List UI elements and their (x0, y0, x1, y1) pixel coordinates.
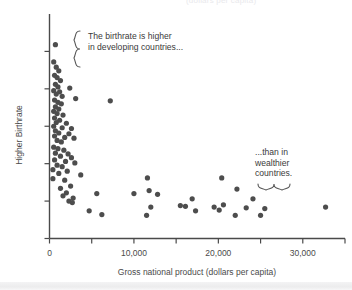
data-point (53, 42, 58, 47)
data-point (58, 186, 63, 191)
data-point (56, 106, 61, 111)
data-point (99, 212, 104, 217)
x-tick-label: 0 (47, 248, 52, 258)
data-point (68, 184, 73, 189)
x-tick-label: 20,000 (205, 248, 231, 258)
data-point (258, 213, 263, 218)
data-point (51, 124, 56, 129)
data-point (59, 139, 64, 144)
data-point (56, 68, 61, 73)
data-point (58, 78, 63, 83)
data-point (51, 59, 56, 64)
data-point (147, 188, 152, 193)
data-point (72, 160, 77, 165)
data-point (62, 178, 67, 183)
data-point (219, 175, 224, 180)
data-point (155, 192, 160, 197)
data-point (56, 130, 61, 135)
data-point (190, 196, 195, 201)
x-tick-label: 10,000 (121, 248, 147, 258)
data-point (234, 187, 239, 192)
data-point (73, 96, 78, 101)
data-point (183, 204, 188, 209)
data-point (66, 131, 71, 136)
data-point (50, 176, 55, 181)
y-axis-label: Higher Birthrate (14, 105, 24, 165)
data-point (217, 207, 222, 212)
data-point (233, 213, 238, 218)
data-point (221, 202, 226, 207)
left-curly-brace-icon (74, 31, 80, 67)
x-axis-ticks (50, 239, 346, 244)
data-point (70, 200, 75, 205)
annotation-wealthier-countries: ...than in wealthier countries. (255, 147, 292, 179)
data-point (55, 146, 60, 151)
x-tick-label: 30,000 (290, 248, 316, 258)
data-point (52, 115, 57, 120)
y-axis-ticks (45, 51, 50, 238)
data-point (178, 203, 183, 208)
data-point (250, 196, 255, 201)
data-point (60, 164, 65, 169)
data-point (148, 204, 153, 209)
data-point (56, 171, 61, 176)
data-points-group (50, 42, 328, 218)
data-point (94, 191, 99, 196)
data-point (262, 206, 267, 211)
data-point (144, 213, 149, 218)
data-point (59, 101, 64, 106)
data-point (55, 84, 60, 89)
data-point (63, 159, 68, 164)
x-axis-label: Gross national product (dollars per capi… (118, 267, 276, 277)
bottom-page-band (0, 282, 352, 290)
data-point (193, 208, 198, 213)
data-point (108, 98, 113, 103)
data-point (323, 204, 328, 209)
data-point (71, 136, 76, 141)
data-point (64, 121, 69, 126)
scatter-chart-figure: (dollars per capita) 010,00020,00030,000… (0, 0, 352, 290)
annotation-developing-countries: The birthrate is higher in developing co… (88, 31, 183, 52)
data-point (52, 157, 57, 162)
data-point (55, 111, 60, 116)
data-point (62, 135, 67, 140)
data-point (145, 175, 150, 180)
data-point (55, 163, 60, 168)
data-point (87, 208, 92, 213)
data-point (60, 94, 65, 99)
data-point (71, 195, 76, 200)
data-point (78, 172, 83, 177)
data-point (131, 191, 136, 196)
data-point (69, 126, 74, 131)
data-point (58, 154, 63, 159)
data-point (60, 125, 65, 130)
bottom-curly-brace-icon (258, 184, 290, 190)
data-point (65, 169, 70, 174)
data-point (244, 205, 249, 210)
data-point (53, 151, 58, 156)
data-point (69, 155, 74, 160)
data-point (61, 148, 66, 153)
data-point (60, 193, 65, 198)
data-point (50, 167, 55, 172)
x-axis-tick-labels: 010,00020,00030,000 (47, 248, 316, 258)
data-point (212, 204, 217, 209)
data-point (54, 91, 59, 96)
data-point (60, 112, 65, 117)
data-point (52, 133, 57, 138)
data-point (67, 85, 72, 90)
